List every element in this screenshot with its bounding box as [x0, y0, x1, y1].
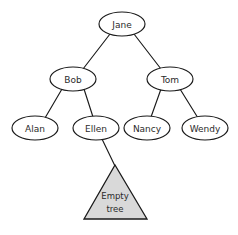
tree-canvas: Empty tree Jane Bob Tom Alan Ellen: [0, 0, 238, 235]
empty-subtree-node[interactable]: Empty tree: [84, 165, 147, 219]
tree-node-wendy[interactable]: Wendy: [182, 116, 228, 140]
edge-jane-bob: [83, 34, 110, 69]
tree-node-bob[interactable]: Bob: [50, 67, 96, 91]
tree-node-ellen[interactable]: Ellen: [73, 116, 119, 140]
node-label-alan: Alan: [25, 124, 45, 134]
node-label-nancy: Nancy: [133, 124, 162, 134]
node-label-bob: Bob: [64, 75, 82, 85]
subtree-label-line1: Empty: [101, 191, 128, 201]
tree-node-jane[interactable]: Jane: [99, 12, 145, 36]
tree-node-tom[interactable]: Tom: [147, 67, 193, 91]
tree-node-alan[interactable]: Alan: [12, 116, 58, 140]
edge-ellen-subtree: [102, 139, 115, 166]
node-label-wendy: Wendy: [190, 124, 221, 134]
tree-node-nancy[interactable]: Nancy: [124, 116, 170, 140]
edge-bob-alan: [45, 89, 62, 118]
edge-jane-tom: [134, 34, 161, 69]
node-label-ellen: Ellen: [85, 124, 107, 134]
edge-tom-nancy: [151, 89, 161, 117]
edge-bob-ellen: [84, 89, 93, 117]
edge-tom-wendy: [180, 89, 198, 118]
node-label-jane: Jane: [111, 20, 132, 30]
binary-tree-diagram: Empty tree Jane Bob Tom Alan Ellen: [0, 0, 238, 235]
node-label-tom: Tom: [160, 75, 179, 85]
subtree-label-line2: tree: [106, 204, 123, 214]
edge-group: [45, 34, 198, 166]
